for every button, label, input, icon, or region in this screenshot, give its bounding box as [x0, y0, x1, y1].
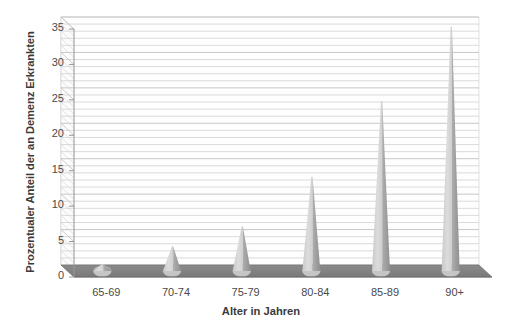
- y-axis-tick-label: 35: [38, 21, 64, 33]
- y-axis-tick-label: 20: [38, 127, 64, 139]
- chart-plot-area: [0, 0, 522, 331]
- y-axis-tick-label: 0: [38, 269, 64, 281]
- x-axis-tick-label: 85-89: [355, 286, 415, 298]
- x-axis-tick-label: 80-84: [285, 286, 345, 298]
- x-axis-tick-label: 90+: [425, 286, 485, 298]
- x-axis-tick-label: 75-79: [216, 286, 276, 298]
- y-axis-tick-label: 30: [38, 56, 64, 68]
- x-axis-title: Alter in Jahren: [0, 305, 522, 317]
- chart-container: Prozentualer Anteil der an Demenz Erkran…: [0, 0, 522, 331]
- y-axis-tick-label: 10: [38, 198, 64, 210]
- y-axis-tick-label: 5: [38, 234, 64, 246]
- x-axis-tick-label: 65-69: [76, 286, 136, 298]
- y-axis-title: Prozentualer Anteil der an Demenz Erkran…: [24, 18, 36, 286]
- y-axis-tick-label: 25: [38, 92, 64, 104]
- y-axis-tick-label: 15: [38, 163, 64, 175]
- x-axis-tick-label: 70-74: [146, 286, 206, 298]
- chart-back-wall: [61, 17, 479, 265]
- chart-floor: [61, 265, 492, 277]
